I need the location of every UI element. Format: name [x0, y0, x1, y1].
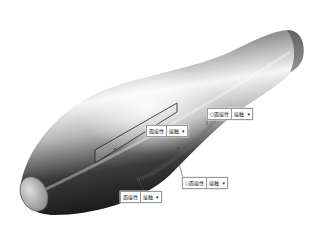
- constraint-type-dropdown[interactable]: 接触 ▾: [232, 109, 252, 119]
- chevron-down-icon: ▾: [247, 110, 250, 118]
- chevron-down-icon: ▾: [156, 193, 159, 201]
- constraint-callout[interactable]: ○面接性 接触 ▾: [207, 108, 253, 120]
- constraint-type-dropdown[interactable]: 接触 ▾: [167, 126, 187, 136]
- cad-viewport: 面接性 接触 ▾ ○面接性 接触 ▾ ○面接性 接触 ▾ 面接性 接触 ▾: [0, 0, 317, 225]
- constraint-type-dropdown[interactable]: 接触 ▾: [141, 192, 161, 202]
- constraint-label: ○面接性: [183, 178, 207, 188]
- constraint-callout[interactable]: 面接性 接触 ▾: [120, 191, 162, 203]
- constraint-label: 面接性: [147, 126, 167, 136]
- constraint-callout[interactable]: 面接性 接触 ▾: [146, 125, 188, 137]
- constraint-label: ○面接性: [208, 109, 232, 119]
- constraint-callout[interactable]: ○面接性 接触 ▾: [182, 177, 228, 189]
- constraint-type-dropdown[interactable]: 接触 ▾: [207, 178, 227, 188]
- chevron-down-icon: ▾: [182, 127, 185, 135]
- constraint-label: 面接性: [121, 192, 141, 202]
- chevron-down-icon: ▾: [222, 179, 225, 187]
